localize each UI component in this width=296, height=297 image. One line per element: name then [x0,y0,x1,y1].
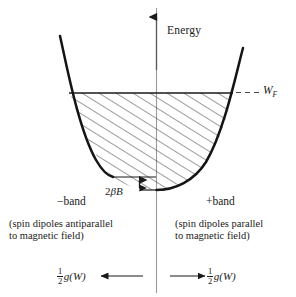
plus-band-dos-label: 1 2 g(W) [207,267,236,285]
zeeman-splitting-label: 2βB [105,185,123,198]
minus-dos-fraction: 1 2 [57,267,63,285]
minus-band-description-line1: (spin dipoles antiparallel [9,218,149,230]
fermi-symbol: W [263,84,273,96]
fermi-subscript: F [273,90,278,99]
plus-dos-numerator: 1 [207,267,213,276]
plus-dos-denominator: 2 [207,276,213,286]
splitting-field: B [116,185,123,197]
minus-dos-function: g(W) [64,270,86,282]
plus-band-description: (spin dipoles parallel to magnetic field… [175,218,296,243]
minus-dos-numerator: 1 [57,267,63,276]
band-diagram-svg [0,0,296,297]
plus-band-label: +band [206,195,235,209]
minus-band-description-line2: to magnetic field) [9,230,149,242]
minus-band-description: (spin dipoles antiparallel to magnetic f… [9,218,149,243]
plus-band-description-line2: to magnetic field) [175,230,296,242]
figure-canvas: Energy WF 2βB −band +band (spin dipoles … [0,0,296,297]
plus-dos-fraction: 1 2 [207,267,213,285]
energy-axis-label: Energy [167,24,201,38]
minus-band-label: −band [57,195,86,209]
plus-band-description-line1: (spin dipoles parallel [175,218,296,230]
fermi-level-label: WF [263,84,277,100]
minus-band-dos-label: 1 2 g(W) [57,267,86,285]
filled-states-region [70,93,232,190]
plus-dos-function: g(W) [214,270,236,282]
minus-dos-denominator: 2 [57,276,63,286]
